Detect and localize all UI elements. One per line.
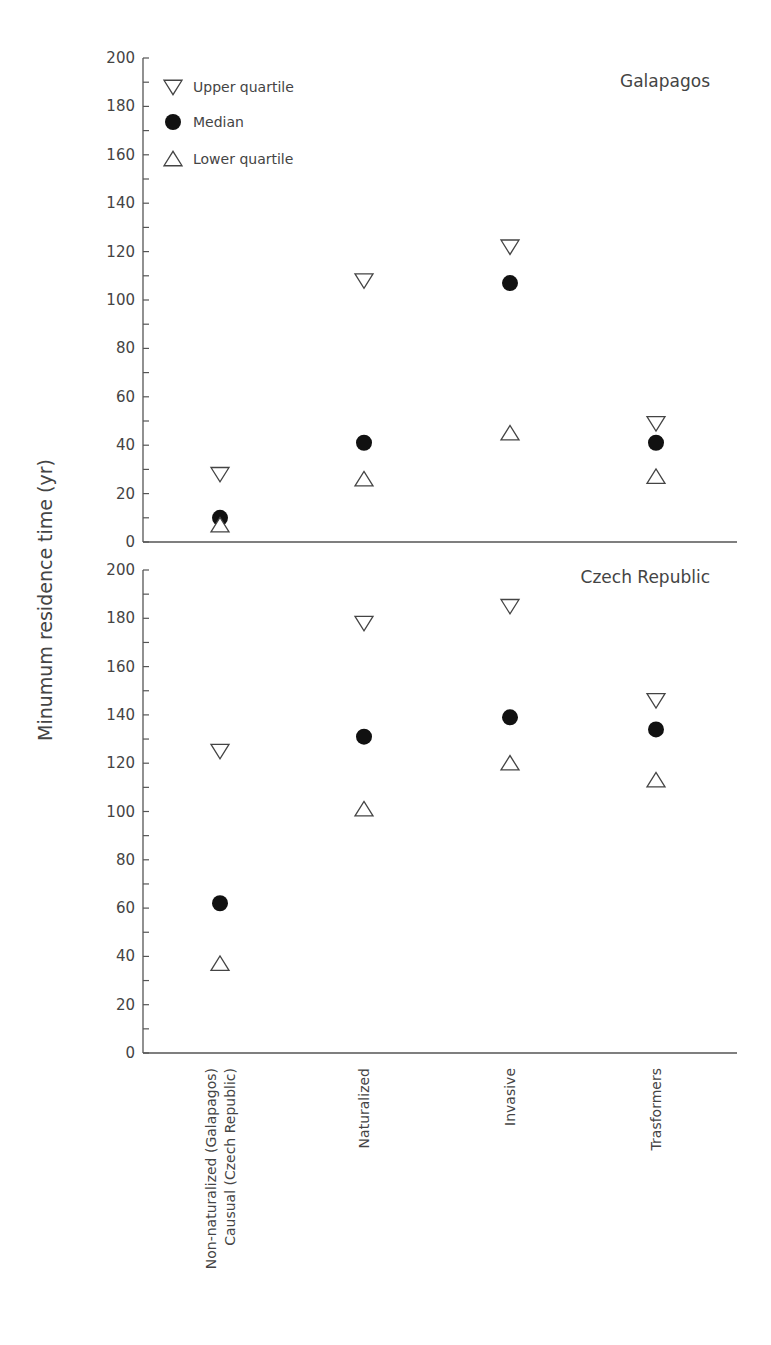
data-point-lower-quartile: [211, 956, 229, 970]
y-tick-label: 100: [106, 291, 135, 309]
data-point-lower-quartile: [501, 425, 519, 439]
legend-marker-lower-quartile: [164, 151, 182, 165]
legend-label: Upper quartile: [193, 79, 294, 95]
legend: Upper quartileMedianLower quartile: [164, 79, 294, 167]
panel-title: Czech Republic: [581, 567, 710, 587]
x-category-label: Naturalized: [356, 1068, 372, 1148]
data-point-upper-quartile: [501, 240, 519, 254]
x-category-label: Causual (Czech Republic): [222, 1068, 238, 1246]
data-point-median: [212, 895, 228, 911]
y-tick-label: 40: [116, 947, 135, 965]
y-tick-label: 80: [116, 339, 135, 357]
data-point-upper-quartile: [355, 616, 373, 630]
y-tick-label: 0: [125, 1044, 135, 1062]
data-point-lower-quartile: [647, 772, 665, 786]
data-point-median: [648, 721, 664, 737]
data-point-upper-quartile: [647, 694, 665, 708]
legend-label: Lower quartile: [193, 151, 293, 167]
y-tick-label: 100: [106, 803, 135, 821]
data-point-lower-quartile: [647, 469, 665, 483]
x-category-label: Trasformers: [648, 1068, 664, 1151]
y-tick-label: 180: [106, 97, 135, 115]
y-tick-label: 140: [106, 194, 135, 212]
legend-marker-upper-quartile: [164, 80, 182, 94]
data-point-upper-quartile: [211, 467, 229, 481]
y-tick-label: 0: [125, 533, 135, 551]
data-point-upper-quartile: [355, 274, 373, 288]
chart-figure: 020406080100120140160180200Galapagos0204…: [0, 0, 771, 1345]
y-tick-label: 160: [106, 658, 135, 676]
legend-marker-median: [165, 114, 181, 130]
y-axis-title: Minumum residence time (yr): [34, 459, 56, 741]
y-tick-label: 80: [116, 851, 135, 869]
y-tick-label: 40: [116, 436, 135, 454]
x-category-label: Non-naturalized (Galapagos): [203, 1068, 219, 1269]
legend-label: Median: [193, 114, 244, 130]
y-tick-label: 140: [106, 706, 135, 724]
data-point-median: [502, 275, 518, 291]
data-point-median: [356, 435, 372, 451]
y-tick-label: 120: [106, 243, 135, 261]
data-point-lower-quartile: [501, 756, 519, 770]
panel-czech-republic: 020406080100120140160180200Czech Republi…: [106, 561, 737, 1062]
data-point-upper-quartile: [501, 599, 519, 613]
y-tick-label: 200: [106, 561, 135, 579]
y-tick-label: 120: [106, 754, 135, 772]
y-tick-label: 60: [116, 388, 135, 406]
data-point-lower-quartile: [355, 471, 373, 485]
x-category-label: Invasive: [502, 1068, 518, 1126]
data-point-median: [502, 709, 518, 725]
data-point-lower-quartile: [355, 801, 373, 815]
y-tick-label: 180: [106, 609, 135, 627]
data-point-upper-quartile: [211, 744, 229, 758]
y-tick-label: 60: [116, 899, 135, 917]
data-point-median: [356, 729, 372, 745]
data-point-upper-quartile: [647, 417, 665, 431]
y-tick-label: 200: [106, 49, 135, 67]
panel-title: Galapagos: [620, 71, 710, 91]
y-tick-label: 20: [116, 485, 135, 503]
x-axis-categories: Non-naturalized (Galapagos)Causual (Czec…: [203, 1068, 665, 1269]
data-point-median: [648, 435, 664, 451]
y-tick-label: 20: [116, 996, 135, 1014]
y-tick-label: 160: [106, 146, 135, 164]
